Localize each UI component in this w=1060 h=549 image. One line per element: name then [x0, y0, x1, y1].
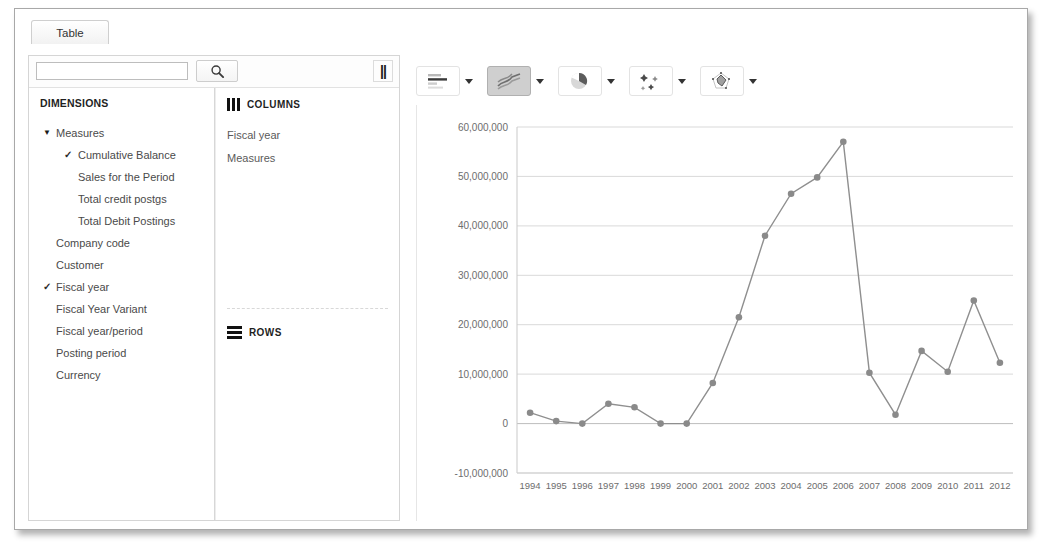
chart-type-pie-dropdown[interactable] [602, 66, 620, 96]
chevron-down-icon [465, 79, 473, 84]
dimension-item[interactable]: Posting period [29, 342, 214, 364]
dimension-item[interactable]: Sales for the Period [29, 166, 214, 188]
x-tick-label: 1994 [520, 480, 541, 491]
chart-type-radar[interactable] [700, 66, 744, 96]
line-chart: 60,000,00050,000,00040,000,00030,000,000… [417, 105, 1025, 525]
chart-type-bar[interactable] [416, 66, 460, 96]
data-point[interactable] [553, 418, 560, 425]
data-point[interactable] [579, 420, 586, 427]
dimension-item[interactable]: Total Debit Postings [29, 210, 214, 232]
y-tick-label: -10,000,000 [455, 468, 509, 479]
data-point[interactable] [527, 409, 534, 416]
expand-caret-icon[interactable]: ▼ [43, 122, 51, 144]
data-point[interactable] [840, 139, 847, 146]
data-point[interactable] [683, 420, 690, 427]
series-line [530, 142, 1000, 424]
application-window: Table || DIMENSIONS [14, 8, 1028, 530]
rows-icon [227, 326, 242, 339]
data-point[interactable] [657, 420, 664, 427]
data-point[interactable] [631, 404, 638, 411]
chart-type-radar-group [700, 66, 762, 96]
chart-type-radar-dropdown[interactable] [744, 66, 762, 96]
dimension-item-label: Customer [56, 259, 104, 271]
x-tick-label: 2005 [807, 480, 828, 491]
data-point[interactable] [788, 190, 795, 197]
chevron-down-icon [678, 79, 686, 84]
chevron-down-icon [536, 79, 544, 84]
columns-field[interactable]: Measures [216, 147, 399, 170]
chart-type-pie-group [558, 66, 620, 96]
scatter-chart-icon [638, 71, 664, 91]
dimension-item-label: Posting period [56, 347, 126, 359]
dimension-item[interactable]: Fiscal year/period [29, 320, 214, 342]
data-point[interactable] [762, 232, 769, 239]
y-tick-label: 20,000,000 [458, 319, 508, 330]
chart-type-scatter-dropdown[interactable] [673, 66, 691, 96]
x-tick-label: 1995 [546, 480, 567, 491]
data-point[interactable] [944, 368, 951, 375]
search-input[interactable] [36, 62, 188, 80]
columns-field[interactable]: Fiscal year [216, 124, 399, 147]
y-tick-label: 40,000,000 [458, 220, 508, 231]
columns-header: COLUMNS [216, 88, 399, 111]
dimensions-panel: DIMENSIONS ▼Measures✓Cumulative BalanceS… [29, 88, 215, 520]
y-tick-label: 30,000,000 [458, 270, 508, 281]
tab-table[interactable]: Table [31, 20, 109, 44]
dimension-item-label: Fiscal Year Variant [56, 303, 147, 315]
dimension-item[interactable]: Fiscal Year Variant [29, 298, 214, 320]
pause-icon: || [380, 63, 386, 79]
x-tick-label: 2003 [754, 480, 775, 491]
dimension-item[interactable]: Company code [29, 232, 214, 254]
dimensions-title: DIMENSIONS [29, 88, 214, 109]
data-point[interactable] [997, 360, 1004, 367]
chart-type-scatter[interactable] [629, 66, 673, 96]
x-tick-label: 1997 [598, 480, 619, 491]
data-point[interactable] [736, 314, 743, 321]
x-tick-label: 2004 [781, 480, 802, 491]
x-tick-label: 1996 [572, 480, 593, 491]
columns-field-list: Fiscal yearMeasures [216, 111, 399, 170]
chart-type-bar-dropdown[interactable] [460, 66, 478, 96]
y-tick-label: 10,000,000 [458, 369, 508, 380]
screenshot-root: Table || DIMENSIONS [0, 0, 1060, 549]
data-point[interactable] [710, 380, 717, 387]
data-point[interactable] [892, 411, 899, 418]
search-icon [210, 64, 225, 79]
chart-type-bar-group [416, 66, 478, 96]
y-tick-label: 50,000,000 [458, 171, 508, 182]
chart-type-pie[interactable] [558, 66, 602, 96]
dimension-item[interactable]: Currency [29, 364, 214, 386]
dimension-item-label: Measures [56, 127, 104, 139]
left-panel: || DIMENSIONS ▼Measures✓Cumulative Balan… [28, 55, 400, 521]
x-tick-label: 2012 [989, 480, 1010, 491]
dimension-item-label: Fiscal year/period [56, 325, 143, 337]
data-point[interactable] [918, 348, 925, 355]
data-point[interactable] [866, 369, 873, 376]
rows-header: ROWS [216, 316, 282, 339]
chart-type-line-dropdown[interactable] [531, 66, 549, 96]
x-tick-label: 2002 [728, 480, 749, 491]
data-point[interactable] [814, 174, 821, 181]
x-tick-label: 2011 [964, 480, 984, 491]
dimension-item[interactable]: ✓Cumulative Balance [29, 144, 214, 166]
chart-type-line[interactable] [487, 66, 531, 96]
dimension-item[interactable]: ▼Measures [29, 122, 214, 144]
search-button[interactable] [196, 60, 238, 82]
bar-chart-icon [425, 71, 451, 91]
y-tick-label: 0 [502, 418, 508, 429]
data-point[interactable] [971, 297, 978, 304]
pause-button[interactable]: || [373, 60, 393, 82]
x-tick-label: 2008 [885, 480, 906, 491]
dimension-item[interactable]: ✓Fiscal year [29, 276, 214, 298]
dimension-item-label: Fiscal year [56, 281, 109, 293]
tab-strip: Table [15, 9, 1027, 43]
data-point[interactable] [605, 401, 612, 408]
pie-chart-icon [567, 71, 593, 91]
dimension-item-label: Cumulative Balance [78, 149, 176, 161]
dimension-item[interactable]: Total credit postgs [29, 188, 214, 210]
chart-area: 60,000,00050,000,00040,000,00030,000,000… [407, 55, 1019, 521]
rows-title: ROWS [249, 327, 282, 338]
chevron-down-icon [607, 79, 615, 84]
x-tick-label: 2009 [911, 480, 932, 491]
dimension-item[interactable]: Customer [29, 254, 214, 276]
